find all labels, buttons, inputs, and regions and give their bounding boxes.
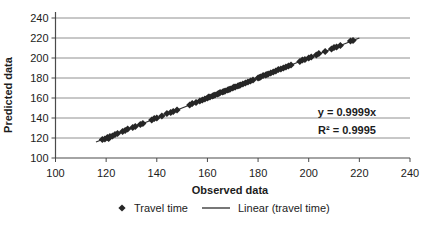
x-tick-label-220: 220 <box>350 167 368 179</box>
legend-diamond-icon <box>118 204 125 211</box>
r-squared-label: R² = 0.9995 <box>318 124 376 136</box>
y-axis-title: Predicted data <box>2 56 14 133</box>
equation-label: y = 0.9999x <box>318 106 377 118</box>
y-tick-label-140: 140 <box>30 112 48 124</box>
y-tick-label-100: 100 <box>30 152 48 164</box>
legend-label-travel-time: Travel time <box>134 202 188 214</box>
legend: Travel timeLinear (travel time) <box>118 202 329 214</box>
gridlines <box>56 18 411 138</box>
legend-label-linear: Linear (travel time) <box>238 202 330 214</box>
x-tick-label-100: 100 <box>46 167 64 179</box>
y-tick-label-160: 160 <box>30 92 48 104</box>
chart-svg: 1001201401601802002202401001201401601802… <box>0 0 429 225</box>
x-tick-label-120: 120 <box>97 167 115 179</box>
annotation-layer: y = 0.9999xR² = 0.9995 <box>318 106 377 136</box>
y-tick-label-180: 180 <box>30 72 48 84</box>
y-tick-label-240: 240 <box>30 12 48 24</box>
x-tick-label-180: 180 <box>249 167 267 179</box>
tick-labels: 1001201401601802002202401001201401601802… <box>30 12 419 179</box>
x-axis-title: Observed data <box>192 184 269 196</box>
y-tick-label-220: 220 <box>30 32 48 44</box>
scatter-chart: 1001201401601802002202401001201401601802… <box>0 0 429 225</box>
data-point <box>322 48 329 55</box>
x-tick-label-140: 140 <box>148 167 166 179</box>
x-tick-label-200: 200 <box>300 167 318 179</box>
y-tick-label-200: 200 <box>30 52 48 64</box>
x-tick-label-240: 240 <box>401 167 419 179</box>
x-tick-label-160: 160 <box>198 167 216 179</box>
y-tick-label-120: 120 <box>30 132 48 144</box>
